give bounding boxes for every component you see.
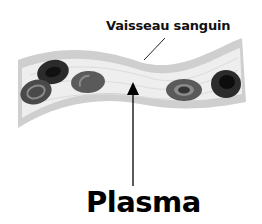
plasma-label: Plasma [86, 188, 201, 217]
cell-center-right [166, 79, 202, 101]
vessel-label: Vaisseau sanguin [106, 18, 230, 33]
cell-right [211, 70, 241, 98]
diagram-canvas: Vaisseau sanguin Plasma [0, 0, 262, 224]
vessel-leader-line [144, 38, 165, 60]
